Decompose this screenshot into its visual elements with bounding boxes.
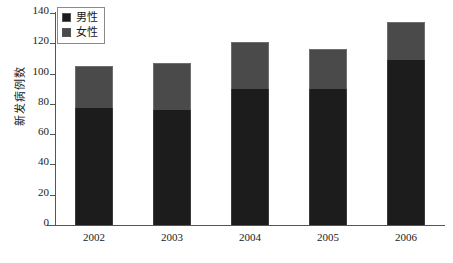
- x-axis-label: 2002: [59, 231, 129, 243]
- y-tick-mark: [50, 13, 55, 14]
- y-tick-mark: [50, 43, 55, 44]
- plot-area: 020406080100120140 20022003200420052006 …: [55, 13, 445, 225]
- legend-label: 男性: [76, 12, 98, 23]
- bar-segment-female[interactable]: [387, 22, 425, 60]
- bar-segment-male[interactable]: [387, 60, 425, 225]
- bar-segment-male[interactable]: [309, 89, 347, 225]
- x-axis-label: 2004: [215, 231, 285, 243]
- x-axis-line: [47, 225, 445, 226]
- y-tick-mark: [50, 164, 55, 165]
- y-axis-line: [55, 12, 56, 225]
- bar-segment-female[interactable]: [153, 63, 191, 110]
- stacked-bar-chart: 新发病例数 020406080100120140 200220032004200…: [0, 0, 453, 263]
- y-tick-mark: [50, 225, 55, 226]
- y-tick-mark: [50, 104, 55, 105]
- bar-segment-female[interactable]: [309, 49, 347, 88]
- y-tick-mark: [50, 134, 55, 135]
- y-axis-title: 新发病例数: [11, 41, 27, 151]
- x-axis-label: 2003: [137, 231, 207, 243]
- y-tick-label: 80: [38, 96, 49, 107]
- y-tick-label: 140: [33, 5, 50, 16]
- bar-stack[interactable]: [309, 49, 347, 225]
- chart-legend: 男性女性: [57, 7, 105, 44]
- x-axis-label: 2006: [371, 231, 441, 243]
- bar-stack[interactable]: [231, 42, 269, 225]
- legend-item[interactable]: 男性: [62, 10, 98, 25]
- legend-item[interactable]: 女性: [62, 25, 98, 40]
- y-tick-label: 60: [38, 126, 49, 137]
- bar-stack[interactable]: [387, 22, 425, 225]
- y-tick-label: 20: [38, 187, 49, 198]
- y-tick-label: 120: [33, 35, 50, 46]
- bar-stack[interactable]: [75, 66, 113, 225]
- bar-segment-male[interactable]: [153, 110, 191, 225]
- y-tick-label: 40: [38, 156, 49, 167]
- bar-segment-female[interactable]: [75, 66, 113, 108]
- female-swatch-icon: [62, 28, 71, 37]
- bar-segment-female[interactable]: [231, 42, 269, 89]
- y-tick-mark: [50, 74, 55, 75]
- male-swatch-icon: [62, 13, 71, 22]
- legend-label: 女性: [76, 27, 98, 38]
- bar-stack[interactable]: [153, 63, 191, 225]
- y-tick-label: 0: [44, 217, 50, 228]
- y-tick-label: 100: [33, 66, 50, 77]
- bar-segment-male[interactable]: [231, 89, 269, 225]
- y-tick-mark: [50, 195, 55, 196]
- bar-segment-male[interactable]: [75, 108, 113, 225]
- x-axis-label: 2005: [293, 231, 363, 243]
